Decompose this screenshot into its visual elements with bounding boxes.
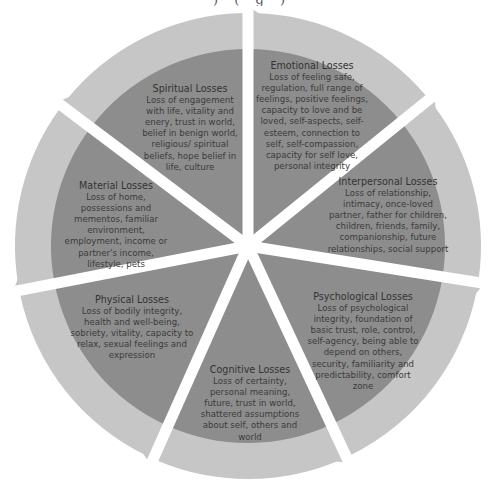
segment-interpersonal-losses: Interpersonal Losses Loss of relationshi… [326, 176, 450, 255]
segment-description: Loss of psychological integrity, foundat… [304, 303, 422, 393]
segment-description: Loss of certainty, personal meaning, fut… [199, 376, 301, 443]
segment-psychological-losses: Psychological Losses Loss of psychologic… [304, 291, 422, 392]
segment-title: Spiritual Losses [140, 83, 240, 95]
segment-description: Loss of home, possessions and mementos, … [60, 192, 172, 270]
segment-title: Interpersonal Losses [326, 176, 450, 188]
segment-title: Psychological Losses [304, 291, 422, 303]
segment-description: Loss of bodily integrity, health and wel… [70, 306, 194, 362]
center-hub [239, 237, 257, 255]
segment-spiritual-losses: Spiritual Losses Loss of engagement with… [140, 83, 240, 173]
segment-material-losses: Material Losses Loss of home, possession… [60, 180, 172, 270]
segment-title: Cognitive Losses [199, 364, 301, 376]
segment-emotional-losses: Emotional Losses Loss of feeling safe, r… [254, 60, 370, 172]
segment-title: Material Losses [60, 180, 172, 192]
segment-description: Loss of feeling safe, regulation, full r… [254, 72, 370, 173]
segment-description: Loss of engagement with life, vitality a… [140, 95, 240, 173]
segment-physical-losses: Physical Losses Loss of bodily integrity… [70, 294, 194, 362]
segment-title: Emotional Losses [254, 60, 370, 72]
segment-description: Loss of relationship, intimacy, once-lov… [326, 188, 450, 255]
segment-title: Physical Losses [70, 294, 194, 306]
segment-cognitive-losses: Cognitive Losses Loss of certainty, pers… [199, 364, 301, 443]
